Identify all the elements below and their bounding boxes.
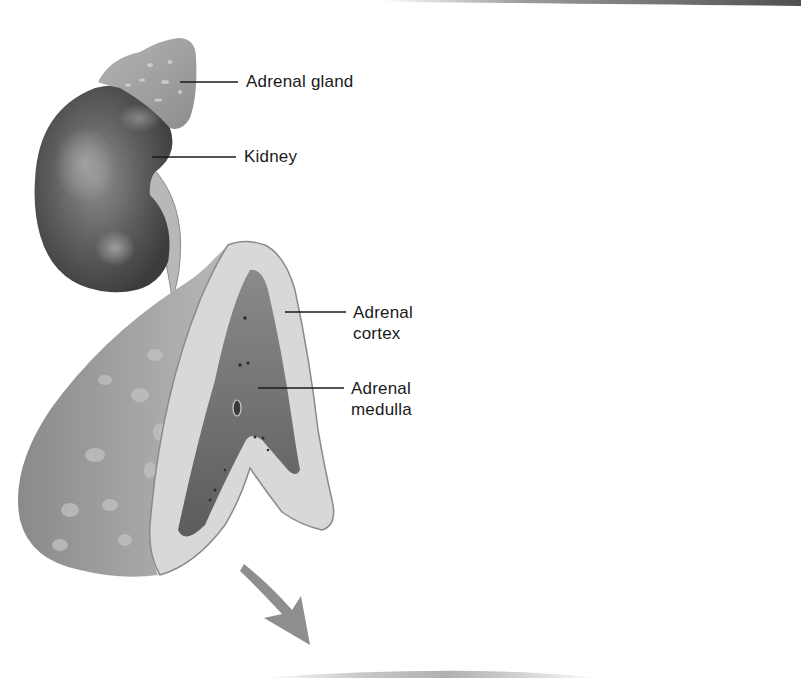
down-arrow-icon [240,564,310,645]
kidney-illustration [35,85,181,298]
top-band [380,0,801,6]
bottom-band [260,671,600,678]
label-adrenal-cortex-line2: cortex [353,323,413,344]
label-adrenal-medulla-line1: Adrenal [351,378,412,399]
adrenal-gland-cross-section [18,242,334,577]
label-adrenal-medulla: Adrenal medulla [351,378,412,420]
label-adrenal-gland: Adrenal gland [246,72,354,92]
label-adrenal-cortex-line1: Adrenal [353,302,413,323]
label-kidney: Kidney [244,147,297,167]
label-adrenal-cortex: Adrenal cortex [353,302,413,344]
label-adrenal-medulla-line2: medulla [351,399,412,420]
